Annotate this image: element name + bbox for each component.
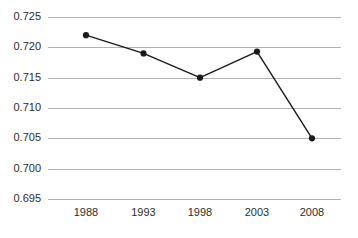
line-chart: 0.6950.7000.7050.7100.7150.7200.725 1988… [0,0,358,238]
y-axis-tick-label: 0.720 [13,40,41,52]
x-axis-tick-label: 1988 [74,206,98,218]
y-axis-tick-label: 0.695 [13,192,41,204]
chart-background [0,0,358,238]
x-axis-tick-label: 1993 [131,206,155,218]
y-axis-tick-label: 0.705 [13,131,41,143]
data-point-marker[interactable] [140,50,146,56]
data-point-marker[interactable] [254,48,260,54]
y-axis-tick-label: 0.725 [13,10,41,22]
x-axis-tick-label: 2008 [300,206,324,218]
data-point-marker[interactable] [197,75,203,81]
chart-canvas: 0.6950.7000.7050.7100.7150.7200.725 1988… [0,0,358,238]
y-axis-tick-label: 0.710 [13,101,41,113]
x-axis-tick-label: 1998 [188,206,212,218]
data-point-marker[interactable] [309,135,315,141]
x-axis-tick-label: 2003 [245,206,269,218]
y-axis-tick-label: 0.715 [13,71,41,83]
data-point-marker[interactable] [83,32,89,38]
y-axis-tick-label: 0.700 [13,162,41,174]
